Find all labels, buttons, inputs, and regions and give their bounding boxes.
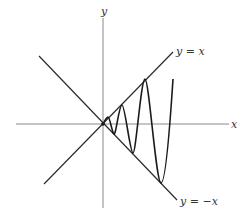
origin-point <box>101 122 105 126</box>
diagram-canvas: y x y = x y = −x <box>0 0 242 220</box>
label-y-equals-neg-x: y = −x <box>179 195 219 208</box>
y-axis-label: y <box>100 5 108 18</box>
x-axis-label: x <box>231 118 238 131</box>
oscillating-curve <box>103 79 173 183</box>
label-y-equals-x: y = x <box>175 45 205 58</box>
line-y-equals-neg-x <box>39 56 177 200</box>
